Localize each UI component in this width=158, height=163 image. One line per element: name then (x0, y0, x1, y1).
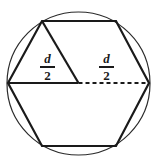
fraction-numerator: d (40, 52, 55, 66)
label-d-over-2-right: d 2 (99, 52, 114, 82)
fraction-numerator: d (99, 52, 114, 66)
geometry-figure: d 2 d 2 (0, 0, 158, 163)
geometry-canvas (0, 0, 158, 163)
fraction-denominator: 2 (99, 68, 114, 82)
fraction-denominator: 2 (40, 68, 55, 82)
label-d-over-2-left: d 2 (40, 52, 55, 82)
